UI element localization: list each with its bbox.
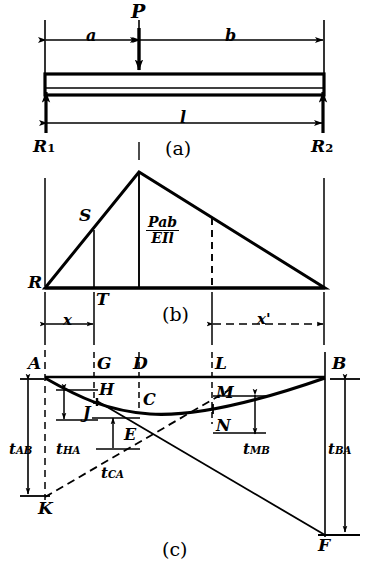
label-reaction-R1: R1 [33, 138, 55, 155]
label-point-D: D [133, 355, 148, 372]
label-deviation-tCA: tCA [101, 466, 124, 481]
label-deviation-tMB: tMB [243, 442, 270, 457]
tAB-base: t [9, 440, 16, 458]
label-point-E: E [124, 427, 136, 443]
label-point-S: S [79, 207, 91, 224]
label-load-P: P [131, 2, 145, 21]
label-point-J: J [83, 405, 91, 421]
label-point-H: H [99, 382, 114, 398]
reaction-R2-subscript: 2 [325, 141, 333, 155]
moment-ordinate-denominator: EIl [146, 230, 179, 246]
tCA-base: t [101, 464, 108, 482]
label-point-N: N [216, 418, 231, 434]
reaction-R2-base: R [311, 136, 325, 156]
tCA-subscript: CA [108, 468, 124, 480]
label-point-K: K [38, 500, 53, 517]
label-deviation-tAB: tAB [9, 442, 32, 457]
tHA-subscript: HA [63, 444, 81, 456]
label-deviation-tHA: tHA [56, 442, 80, 457]
moment-triangle [45, 172, 325, 288]
caption-b: (b) [162, 305, 189, 324]
label-point-G: G [97, 355, 112, 372]
label-point-R: R [28, 274, 42, 291]
reaction-R1-subscript: 1 [47, 141, 55, 155]
label-point-C: C [143, 392, 156, 408]
reaction-R1-base: R [33, 136, 47, 156]
tBA-subscript: BA [335, 444, 352, 456]
label-dim-x-prime: x' [257, 312, 271, 327]
label-moment-ordinate: Pab EIl [146, 215, 179, 245]
beam-outline [45, 74, 324, 95]
label-point-M: M [216, 385, 234, 401]
tBA-base: t [328, 440, 335, 458]
caption-a: (a) [165, 139, 191, 158]
panel-b-graphics [45, 172, 325, 288]
tangent-line-to-F [97, 401, 325, 535]
figure-canvas: P a b l R1 R2 (a) R S T Pab EIl (b) x x'… [0, 0, 365, 573]
tHA-base: t [56, 440, 63, 458]
tMB-subscript: MB [250, 444, 270, 456]
caption-c: (c) [162, 540, 187, 559]
label-point-A: A [28, 355, 41, 372]
tAB-subscript: AB [16, 444, 33, 456]
label-reaction-R2: R2 [311, 138, 333, 155]
figure-vector-layer [0, 0, 365, 573]
label-point-B: B [332, 355, 346, 372]
moment-ordinate-numerator: Pab [146, 215, 179, 230]
label-point-L: L [215, 355, 227, 372]
label-point-T: T [96, 291, 109, 308]
label-dim-l: l [180, 110, 186, 126]
label-dim-b: b [225, 28, 236, 44]
label-point-F: F [318, 537, 330, 554]
label-dim-a: a [86, 28, 96, 44]
label-deviation-tBA: tBA [328, 442, 351, 457]
label-dim-x: x [63, 313, 72, 328]
tMB-base: t [243, 440, 250, 458]
